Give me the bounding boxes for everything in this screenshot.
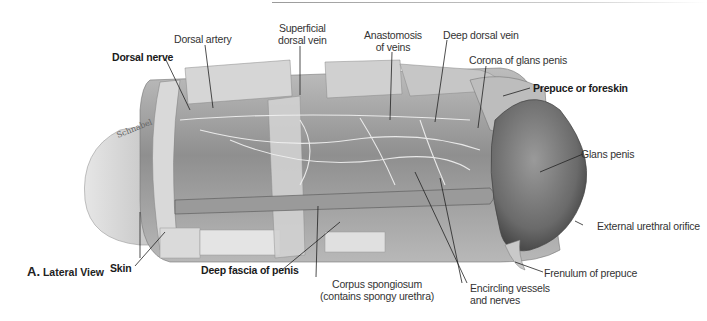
panel-letter: A. <box>27 264 40 279</box>
label-dorsal-nerve: Dorsal nerve <box>112 51 173 63</box>
glans <box>491 100 587 251</box>
label-skin: Skin <box>110 262 131 274</box>
label-deep-dorsal-vein: Deep dorsal vein <box>443 29 519 41</box>
ventral-skin-flap-1 <box>160 228 200 258</box>
panel-title: Lateral View <box>43 266 104 278</box>
label-encircling-vessels-and-nerves: Encircling vessels and nerves <box>470 282 550 306</box>
label-anastomosis-of-veins: Anastomosis of veins <box>364 29 422 53</box>
label-corona-of-glans-penis: Corona of glans penis <box>469 54 567 66</box>
label-dorsal-artery: Dorsal artery <box>174 33 232 45</box>
ventral-skin-flap-2 <box>200 230 280 255</box>
label-frenulum-of-prepuce: Frenulum of prepuce <box>544 267 637 279</box>
panel-caption: A. Lateral View <box>27 264 104 279</box>
ventral-skin-flap-3 <box>325 232 385 252</box>
label-deep-fascia-of-penis: Deep fascia of penis <box>201 264 299 276</box>
label-external-urethral-orifice: External urethral orifice <box>597 220 700 232</box>
label-glans-penis: Glans penis <box>581 148 634 160</box>
label-prepuce-or-foreskin: Prepuce or foreskin <box>533 82 628 94</box>
dorsal-skin-flap-1 <box>185 60 292 104</box>
label-corpus-spongiosum: Corpus spongiosum (contains spongy ureth… <box>320 278 434 302</box>
label-superficial-dorsal-vein: Superficial dorsal vein <box>278 22 327 46</box>
